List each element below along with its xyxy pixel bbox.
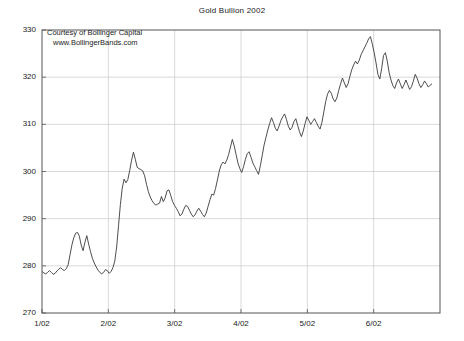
credit-line-1: Courtesy of Bollinger Capital (47, 28, 142, 38)
y-axis-tick-label: 310 (10, 119, 36, 128)
credit-line-2: www.BollingerBands.com (47, 38, 142, 48)
plot-area (0, 0, 464, 341)
x-axis-tick-label: 6/02 (354, 319, 394, 328)
y-axis-tick-label: 280 (10, 261, 36, 270)
x-axis-tick-label: 2/02 (88, 319, 128, 328)
x-axis-tick-label: 1/02 (22, 319, 62, 328)
x-axis-tick-label: 4/02 (221, 319, 261, 328)
chart-container: Gold Bullion 2002 Courtesy of Bollinger … (0, 0, 464, 341)
y-axis-tick-label: 330 (10, 25, 36, 34)
y-axis-tick-label: 270 (10, 308, 36, 317)
y-axis-tick-label: 320 (10, 72, 36, 81)
x-axis-tick-label: 5/02 (287, 319, 327, 328)
y-axis-tick-label: 300 (10, 167, 36, 176)
y-axis-tick-label: 290 (10, 214, 36, 223)
x-axis-tick-label: 3/02 (155, 319, 195, 328)
credit-annotation: Courtesy of Bollinger Capital www.Bollin… (47, 28, 142, 48)
